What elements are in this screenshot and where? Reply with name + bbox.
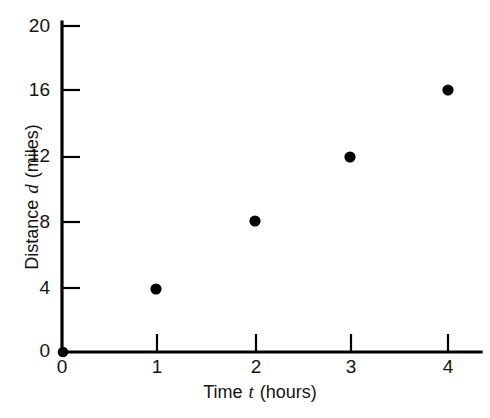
x-tick-label-2: 2 xyxy=(239,357,273,376)
data-point-1 xyxy=(150,283,161,294)
y-axis-variable: d xyxy=(21,183,42,195)
y-axis-title: Distance d (miles) xyxy=(21,97,43,297)
x-axis-variable: t xyxy=(248,381,255,402)
data-points xyxy=(58,84,454,357)
y-axis-title-post: (miles) xyxy=(22,124,42,183)
x-axis-ticks xyxy=(157,334,448,351)
y-axis-ticks xyxy=(63,26,80,288)
y-axis-title-pre: Distance xyxy=(22,195,42,270)
data-point-2 xyxy=(249,215,260,226)
data-point-4 xyxy=(442,84,453,95)
x-tick-label-0: 0 xyxy=(45,357,79,376)
plot-area xyxy=(0,0,490,418)
x-axis-title: Time t (hours) xyxy=(145,381,375,403)
x-axis-title-post: (hours) xyxy=(255,382,317,402)
data-point-3 xyxy=(344,151,355,162)
x-tick-label-3: 3 xyxy=(334,357,368,376)
y-tick-label-20: 20 xyxy=(10,16,50,35)
y-tick-label-0: 0 xyxy=(10,341,50,360)
x-tick-label-4: 4 xyxy=(431,357,465,376)
x-axis-title-pre: Time xyxy=(203,382,247,402)
scatter-chart-figure: 20 16 12 8 4 0 0 1 2 3 4 Distance d (mil… xyxy=(0,0,490,418)
x-tick-label-1: 1 xyxy=(140,357,174,376)
